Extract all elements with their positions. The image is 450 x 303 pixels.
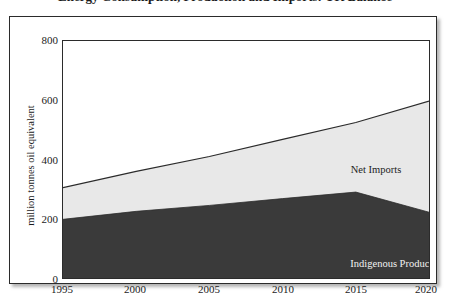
x-tick-2000: 2000 xyxy=(124,283,146,295)
chart-figure: Energy Consumption, Production and Impor… xyxy=(0,0,450,303)
x-tick-2020: 2020 xyxy=(415,283,437,295)
x-tick-2010: 2010 xyxy=(272,283,294,295)
area-chart-svg xyxy=(63,41,429,278)
y-tick-200: 200 xyxy=(14,213,58,225)
x-tick-2005: 2005 xyxy=(198,283,220,295)
y-tick-400: 400 xyxy=(14,154,58,166)
y-tick-800: 800 xyxy=(14,34,58,46)
plot-area: Net Imports Indigenous Production xyxy=(62,40,430,279)
x-tick-1995: 1995 xyxy=(51,283,73,295)
y-axis-label: million tonnes oil equivalent xyxy=(25,86,36,246)
series-label-net-imports: Net Imports xyxy=(351,164,401,175)
series-label-indigenous-production: Indigenous Production xyxy=(350,258,430,269)
chart-panel: 800 600 400 200 0 million tonnes oil equ… xyxy=(9,16,437,284)
chart-title-clipped: Energy Consumption, Production and Impor… xyxy=(0,0,450,6)
chart-title: Energy Consumption, Production and Impor… xyxy=(0,0,450,5)
y-tick-600: 600 xyxy=(14,94,58,106)
x-tick-2015: 2015 xyxy=(345,283,367,295)
